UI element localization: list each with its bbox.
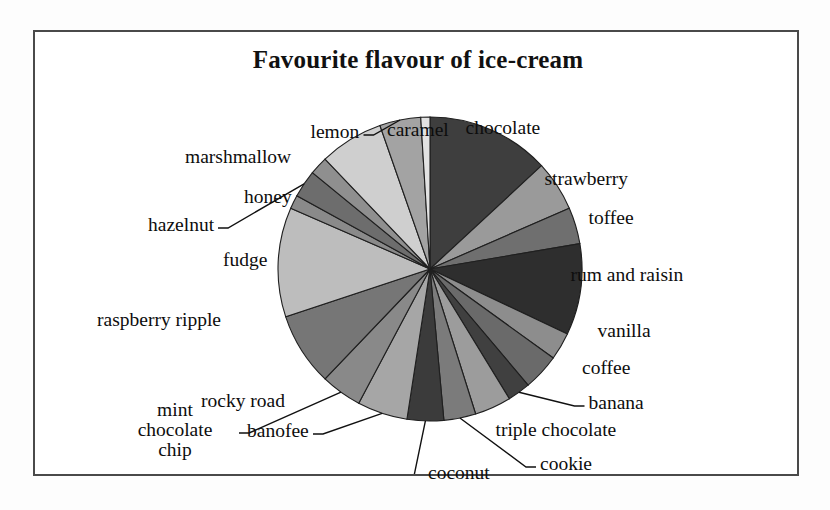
pie-slice-label: toffee <box>589 208 634 229</box>
pie-slice-label: raspberry ripple <box>97 310 221 331</box>
pie-slice-label: rum and raisin <box>571 265 684 285</box>
label-leader-line <box>519 392 585 406</box>
pie-slice-label: banana <box>589 393 644 414</box>
pie-slice-label: cookie <box>540 454 592 475</box>
pie-slice-label: triple chocolate <box>496 420 617 441</box>
pie-slice-label: fudge <box>223 250 267 271</box>
pie-slice-label: hazelnut <box>148 215 214 236</box>
label-leader-line <box>313 413 382 434</box>
pie-slice-label: banofee <box>247 421 309 442</box>
pie-slice-label: caramel <box>387 120 449 141</box>
pie-slice-label: strawberry <box>545 169 628 190</box>
pie-slice-label: rocky road <box>201 391 285 412</box>
pie-slice-label: coconut <box>428 463 490 484</box>
label-leader-line <box>414 421 425 474</box>
screenshot-page: Favourite flavour of ice-cream chocolate… <box>0 0 830 510</box>
pie-slice-label: lemon <box>311 122 360 143</box>
pie-slice-label: vanilla <box>598 321 651 342</box>
pie-slice-label: coffee <box>582 358 630 379</box>
pie-slice-label: marshmallow <box>185 147 291 168</box>
chart-frame: Favourite flavour of ice-cream chocolate… <box>33 30 799 476</box>
pie-slice-label: honey <box>244 187 292 208</box>
pie-slices-group <box>278 117 582 421</box>
pie-slice-label: chocolate <box>466 118 541 139</box>
